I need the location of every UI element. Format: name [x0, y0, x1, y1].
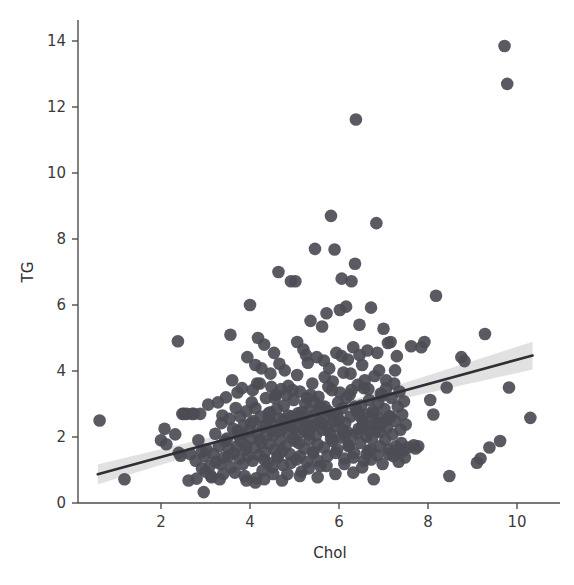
scatter-point	[483, 441, 496, 454]
scatter-point	[320, 421, 333, 434]
scatter-point	[389, 364, 402, 377]
y-tick-label: 10	[47, 164, 66, 182]
scatter-point	[276, 445, 289, 458]
scatter-point	[524, 412, 537, 425]
scatter-point	[349, 257, 362, 270]
scatter-point	[474, 452, 487, 465]
scatter-point	[245, 417, 258, 430]
scatter-point	[356, 420, 369, 433]
scatter-point	[384, 410, 397, 423]
scatter-point	[118, 473, 131, 486]
scatter-point	[338, 429, 351, 442]
scatter-point	[286, 384, 299, 397]
scatter-point	[391, 445, 404, 458]
scatter-point	[424, 394, 437, 407]
scatter-point	[251, 377, 264, 390]
scatter-point	[365, 453, 378, 466]
scatter-point	[265, 381, 278, 394]
scatter-point	[329, 468, 342, 481]
x-tick-label: 6	[334, 513, 344, 531]
scatter-point	[358, 382, 371, 395]
scatter-point	[240, 440, 253, 453]
scatter-point	[93, 414, 106, 427]
scatter-point	[213, 473, 226, 486]
scatter-point	[309, 243, 322, 256]
scatter-point	[169, 428, 182, 441]
scatter-point	[377, 322, 390, 335]
x-tick-label: 4	[245, 513, 255, 531]
scatter-point	[328, 243, 341, 256]
scatter-point	[345, 275, 358, 288]
scatter-point	[340, 300, 353, 313]
scatter-point	[306, 377, 319, 390]
y-tick-label: 14	[47, 32, 66, 50]
scatter-point	[273, 357, 286, 370]
scatter-point	[494, 435, 507, 448]
scatter-point	[320, 307, 333, 320]
scatter-point	[244, 299, 257, 312]
scatter-point	[399, 418, 412, 431]
x-axis-ticks: 246810	[156, 503, 526, 531]
scatter-point	[172, 335, 185, 348]
scatter-point	[318, 354, 331, 367]
scatter-point	[370, 217, 383, 230]
scatter-point	[325, 210, 338, 223]
scatter-point	[367, 473, 380, 486]
scatter-point	[458, 355, 471, 368]
scatter-point	[216, 409, 229, 422]
scatter-point	[302, 428, 315, 441]
scatter-point	[222, 450, 235, 463]
scatter-point	[430, 289, 443, 302]
y-tick-label: 0	[56, 494, 66, 512]
scatter-point	[220, 391, 233, 404]
scatter-point	[501, 78, 514, 91]
y-tick-label: 4	[56, 362, 66, 380]
scatter-point	[300, 349, 313, 362]
scatter-point	[335, 350, 348, 363]
x-tick-label: 10	[507, 513, 526, 531]
scatter-point	[498, 40, 511, 53]
scatter-point	[440, 381, 453, 394]
scatter-point	[350, 113, 363, 126]
scatter-point	[311, 471, 324, 484]
scatter-point	[158, 422, 171, 435]
scatter-point	[258, 453, 271, 466]
y-tick-label: 2	[56, 428, 66, 446]
scatter-point	[367, 405, 380, 418]
x-axis-title: Chol	[313, 544, 346, 562]
scatter-point	[291, 369, 304, 382]
scatter-point	[197, 486, 210, 499]
scatter-point	[249, 402, 262, 415]
scatter-point	[398, 395, 411, 408]
scatter-plot-figure: 02468101214 246810 TG Chol	[0, 0, 574, 585]
scatter-point	[391, 350, 404, 363]
scatter-point	[353, 349, 366, 362]
scatter-point	[268, 347, 281, 360]
scatter-point	[272, 266, 285, 279]
scatter-point	[503, 381, 516, 394]
scatter-point	[226, 374, 239, 387]
scatter-point	[253, 433, 266, 446]
scatter-point	[427, 408, 440, 421]
y-tick-label: 8	[56, 230, 66, 248]
scatter-point	[365, 301, 378, 314]
scatter-point	[289, 275, 302, 288]
plot-canvas: 02468101214 246810 TG Chol	[0, 0, 574, 585]
scatter-point	[329, 447, 342, 460]
scatter-point	[342, 440, 355, 453]
scatter-point	[276, 474, 289, 487]
scatter-point	[269, 392, 282, 405]
x-tick-label: 2	[156, 513, 166, 531]
scatter-points-layer	[93, 40, 536, 499]
scatter-point	[289, 435, 302, 448]
scatter-point	[258, 338, 271, 351]
scatter-point	[443, 470, 456, 483]
scatter-point	[302, 462, 315, 475]
scatter-point	[316, 320, 329, 333]
scatter-point	[236, 382, 249, 395]
scatter-point	[285, 456, 298, 469]
scatter-point	[412, 440, 425, 453]
scatter-point	[418, 336, 431, 349]
y-tick-label: 6	[56, 296, 66, 314]
scatter-point	[240, 474, 253, 487]
